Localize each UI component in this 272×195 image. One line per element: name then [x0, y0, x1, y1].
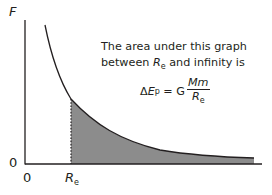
annotation-line-1: The area under this graph — [101, 39, 251, 55]
annotation-line-2: between Re and infinity is — [101, 55, 251, 75]
x-origin-label: 0 — [23, 171, 31, 184]
formula-fraction: Mm Re — [187, 76, 210, 107]
energy-formula: ΔEp = G Mm Re — [140, 76, 210, 107]
y-axis-label: F — [9, 5, 16, 18]
re-label: Re — [65, 171, 79, 187]
shaded-area — [71, 99, 254, 164]
y-origin-label: 0 — [9, 156, 17, 169]
graph-canvas — [0, 0, 272, 195]
area-annotation: The area under this graph between Re and… — [101, 39, 251, 75]
